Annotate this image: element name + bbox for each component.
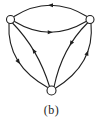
edge-bottom-to-top-right	[55, 24, 91, 89]
digraph-figure: (b)	[0, 0, 103, 123]
edge-top-left-to-top-right	[15, 22, 87, 33]
edge-bottom-to-top-left	[13, 23, 50, 87]
node-top-left	[7, 16, 15, 24]
arrowhead-top-left-to-top-right	[48, 30, 53, 34]
node-top-right	[86, 16, 94, 24]
arrowhead-top-right-to-bottom	[70, 40, 74, 45]
figure-caption: (b)	[0, 100, 103, 120]
digraph-canvas	[0, 0, 103, 100]
node-bottom	[47, 86, 56, 95]
arrowhead-bottom-to-top-right	[84, 51, 88, 56]
arrowhead-top-right-to-top-left	[48, 3, 53, 7]
edge-top-right-to-top-left	[14, 5, 87, 16]
digraph-canvas-wrap	[0, 0, 103, 100]
edge-top-left-to-bottom	[9, 24, 49, 89]
